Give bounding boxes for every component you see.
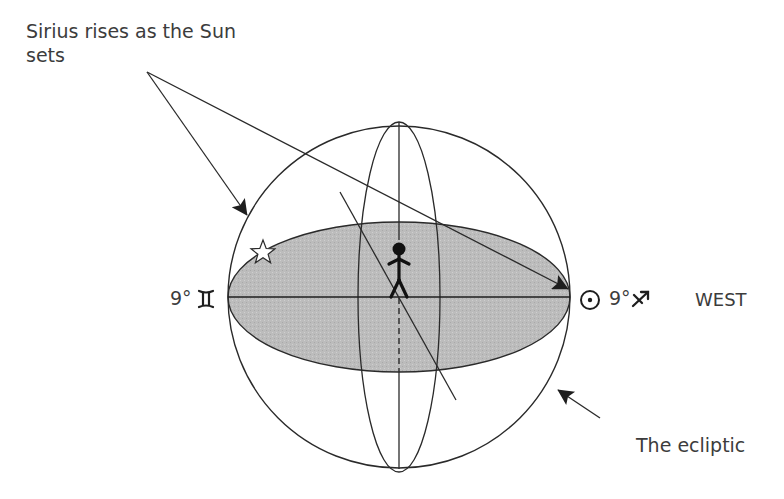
west-direction-label: WEST <box>695 288 747 312</box>
ecliptic-callout-label: The ecliptic <box>636 433 745 457</box>
left-degree-label: 9° <box>170 286 192 310</box>
right-degree-label: 9° <box>609 286 631 310</box>
sun-symbol-icon <box>581 291 599 309</box>
pointer-to-sphere-arrow <box>147 72 247 215</box>
celestial-sphere-diagram <box>0 0 784 499</box>
ecliptic-pointer-arrow <box>558 390 600 418</box>
sirius-callout-label: Sirius rises as the Sun sets <box>26 19 256 67</box>
gemini-glyph-icon <box>199 291 213 307</box>
sagittarius-glyph-icon <box>633 292 648 306</box>
